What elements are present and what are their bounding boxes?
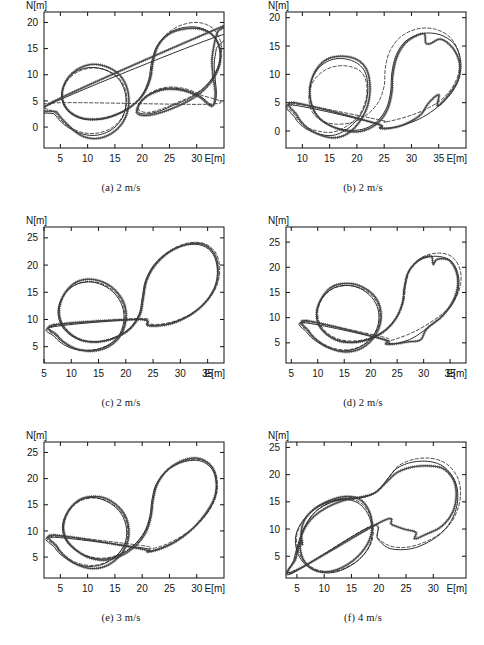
y-tick-label: 20 bbox=[27, 260, 39, 271]
panel-caption-c: (c) 2 m/s bbox=[0, 397, 242, 408]
figure-panel-e: N[m]51015202530E[m]510152025(e) 3 m/s bbox=[0, 430, 242, 645]
x-tick-label: 35 bbox=[433, 153, 445, 164]
x-tick-label: 25 bbox=[400, 583, 412, 594]
y-tick-label: 0 bbox=[274, 126, 280, 137]
x-tick-label: 10 bbox=[82, 153, 94, 164]
panel-caption-d: (d) 2 m/s bbox=[242, 397, 484, 408]
plot-area-a: N[m]51015202530E[m]05101520 bbox=[0, 0, 242, 180]
plot-frame-c bbox=[44, 227, 224, 363]
x-tick-label: 5 bbox=[58, 583, 64, 594]
x-tick-label: 20 bbox=[373, 583, 385, 594]
y-axis-label-b: N[m] bbox=[268, 0, 289, 11]
x-tick-label: 25 bbox=[148, 368, 160, 379]
x-tick-label: 5 bbox=[294, 583, 300, 594]
plot-frame-d bbox=[286, 227, 466, 363]
x-tick-label: 15 bbox=[109, 153, 121, 164]
y-tick-label: 10 bbox=[269, 524, 281, 535]
y-tick-label: 15 bbox=[27, 499, 39, 510]
x-tick-label: 20 bbox=[137, 583, 149, 594]
x-tick-label: 25 bbox=[164, 153, 176, 164]
trajectory-reference-dashed-d bbox=[300, 253, 461, 350]
y-tick-label: 5 bbox=[32, 341, 38, 352]
y-tick-label: 20 bbox=[269, 262, 281, 273]
y-axis-label-f: N[m] bbox=[268, 430, 289, 441]
x-axis-label-c: E[m] bbox=[204, 368, 225, 379]
y-tick-label: 10 bbox=[27, 69, 39, 80]
x-tick-label: 5 bbox=[58, 153, 64, 164]
y-tick-label: 20 bbox=[27, 17, 39, 28]
y-tick-label: 0 bbox=[32, 122, 38, 133]
figure-panel-grid: N[m]51015202530E[m]05101520(a) 2 m/sN[m]… bbox=[0, 0, 484, 645]
y-tick-label: 15 bbox=[269, 41, 281, 52]
x-tick-label: 10 bbox=[312, 368, 324, 379]
panel-caption-f: (f) 4 m/s bbox=[242, 612, 484, 623]
x-tick-label: 30 bbox=[191, 583, 203, 594]
figure-panel-a: N[m]51015202530E[m]05101520(a) 2 m/s bbox=[0, 0, 242, 215]
x-tick-label: 20 bbox=[120, 368, 132, 379]
trajectory-estimate-solid-a bbox=[39, 27, 230, 136]
y-axis-label-d: N[m] bbox=[268, 215, 289, 226]
x-tick-label: 25 bbox=[164, 583, 176, 594]
plot-area-c: N[m]5101520253035E[m]510152025 bbox=[0, 215, 242, 395]
y-tick-label: 5 bbox=[32, 96, 38, 107]
x-tick-label: 15 bbox=[339, 368, 351, 379]
x-axis-label-f: E[m] bbox=[446, 583, 467, 594]
x-tick-label: 15 bbox=[346, 583, 358, 594]
trajectory-measurement-plus-d bbox=[301, 256, 458, 352]
trajectory-measurement-plus-e bbox=[48, 458, 216, 569]
x-axis-label-a: E[m] bbox=[204, 153, 225, 164]
x-tick-label: 5 bbox=[289, 368, 295, 379]
panel-caption-b: (b) 2 m/s bbox=[242, 182, 484, 193]
y-tick-label: 10 bbox=[27, 314, 39, 325]
x-tick-label: 20 bbox=[351, 153, 363, 164]
y-tick-label: 10 bbox=[269, 312, 281, 323]
y-tick-label: 5 bbox=[274, 97, 280, 108]
figure-panel-f: N[m]51015202530E[m]510152025(f) 4 m/s bbox=[242, 430, 484, 645]
panel-caption-a: (a) 2 m/s bbox=[0, 182, 242, 193]
y-tick-label: 5 bbox=[274, 337, 280, 348]
x-tick-label: 10 bbox=[82, 583, 94, 594]
y-tick-label: 25 bbox=[269, 442, 281, 453]
y-axis-label-a: N[m] bbox=[26, 0, 47, 11]
y-tick-label: 25 bbox=[27, 232, 39, 243]
x-tick-label: 20 bbox=[365, 368, 377, 379]
figure-panel-b: N[m]101520253035E[m]05101520(b) 2 m/s bbox=[242, 0, 484, 215]
x-tick-label: 10 bbox=[66, 368, 78, 379]
x-tick-label: 25 bbox=[392, 368, 404, 379]
y-tick-label: 20 bbox=[27, 473, 39, 484]
x-tick-label: 25 bbox=[379, 153, 391, 164]
y-tick-label: 25 bbox=[27, 447, 39, 458]
x-tick-label: 30 bbox=[428, 583, 440, 594]
x-tick-label: 10 bbox=[297, 153, 309, 164]
plot-area-d: N[m]5101520253035E[m]510152025 bbox=[242, 215, 484, 395]
plot-area-f: N[m]51015202530E[m]510152025 bbox=[242, 430, 484, 610]
trajectory-reference-dashed-c bbox=[47, 242, 220, 350]
y-tick-label: 20 bbox=[269, 12, 281, 23]
panel-caption-e: (e) 3 m/s bbox=[0, 612, 242, 623]
x-axis-label-d: E[m] bbox=[446, 368, 467, 379]
trajectory-reference-dashed-f bbox=[287, 458, 460, 574]
x-tick-label: 5 bbox=[41, 368, 47, 379]
plot-area-b: N[m]101520253035E[m]05101520 bbox=[242, 0, 484, 180]
plot-area-e: N[m]51015202530E[m]510152025 bbox=[0, 430, 242, 610]
y-axis-label-e: N[m] bbox=[26, 430, 47, 441]
y-tick-label: 20 bbox=[269, 469, 281, 480]
y-tick-label: 15 bbox=[269, 496, 281, 507]
y-tick-label: 25 bbox=[269, 237, 281, 248]
figure-panel-d: N[m]5101520253035E[m]510152025(d) 2 m/s bbox=[242, 215, 484, 430]
x-axis-label-b: E[m] bbox=[446, 153, 467, 164]
x-tick-label: 15 bbox=[324, 153, 336, 164]
y-tick-label: 5 bbox=[32, 552, 38, 563]
x-tick-label: 20 bbox=[137, 153, 149, 164]
x-tick-label: 30 bbox=[406, 153, 418, 164]
x-tick-label: 15 bbox=[109, 583, 121, 594]
y-tick-label: 5 bbox=[274, 551, 280, 562]
y-axis-label-c: N[m] bbox=[26, 215, 47, 226]
x-axis-label-e: E[m] bbox=[204, 583, 225, 594]
x-tick-label: 15 bbox=[93, 368, 105, 379]
trajectory-reference-dashed-b bbox=[287, 28, 460, 132]
trajectory-estimate-solid-b bbox=[286, 33, 461, 136]
y-tick-label: 15 bbox=[269, 287, 281, 298]
y-tick-label: 15 bbox=[27, 43, 39, 54]
y-tick-label: 10 bbox=[27, 526, 39, 537]
